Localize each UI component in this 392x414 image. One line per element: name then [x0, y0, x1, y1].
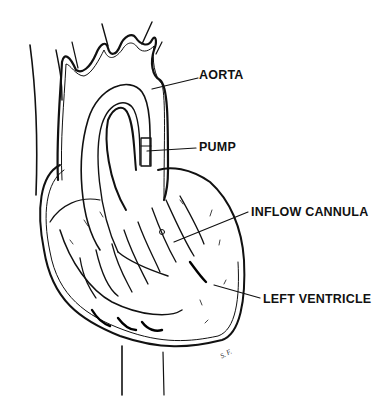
inflow-cannula-label: INFLOW CANNULA [251, 205, 368, 219]
conduit-inner [98, 103, 140, 252]
left-ventricle-leader [214, 285, 260, 298]
inflow-cannula-leader [174, 212, 248, 242]
left-ventricle-label: LEFT VENTRICLE [263, 292, 371, 306]
vena-cava [30, 45, 37, 195]
pump-label: PUMP [199, 140, 236, 154]
pump-leader [147, 148, 196, 151]
aorta-label: AORTA [199, 68, 244, 82]
